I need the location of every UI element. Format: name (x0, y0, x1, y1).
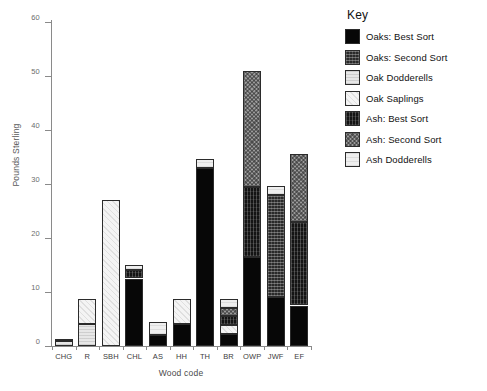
y-tick (45, 184, 51, 185)
x-tick-label: R (76, 352, 100, 361)
x-tick-label: JWF (264, 352, 288, 361)
bar[interactable] (78, 0, 96, 346)
legend-item[interactable]: Ash Dodderells (345, 152, 485, 167)
legend-item-label: Oaks: Second Sort (366, 52, 447, 63)
bar-segment[interactable] (220, 334, 238, 346)
legend-item[interactable]: Oaks: Second Sort (345, 50, 485, 65)
y-tick (45, 130, 51, 131)
x-tick (76, 346, 77, 350)
bar-segment[interactable] (125, 279, 143, 347)
x-tick (287, 346, 288, 350)
legend-item[interactable]: Ash: Best Sort (345, 111, 485, 126)
bar-segment[interactable] (243, 71, 261, 187)
bar[interactable] (173, 0, 191, 346)
x-tick (170, 346, 171, 350)
legend-swatch (345, 29, 360, 44)
bar-segment[interactable] (102, 200, 120, 346)
bar-segment[interactable] (78, 324, 96, 346)
bar-segment[interactable] (267, 186, 285, 195)
x-tick-label: BR (217, 352, 241, 361)
y-tick (45, 346, 51, 347)
x-tick-label: SBH (99, 352, 123, 361)
x-tick (217, 346, 218, 350)
bar[interactable] (220, 0, 238, 346)
y-tick-label: 60 (0, 13, 40, 22)
y-tick (45, 22, 51, 23)
bar[interactable] (55, 0, 73, 346)
bar-segment[interactable] (220, 308, 238, 316)
y-tick (45, 292, 51, 293)
x-tick (52, 346, 53, 350)
x-tick-label: AS (146, 352, 170, 361)
bar[interactable] (125, 0, 143, 346)
bar[interactable] (267, 0, 285, 346)
y-tick-label: 20 (0, 229, 40, 238)
x-tick-label: HH (170, 352, 194, 361)
legend-item-label: Ash: Second Sort (366, 134, 442, 145)
legend-item[interactable]: Oak Saplings (345, 91, 485, 106)
bar[interactable] (149, 0, 167, 346)
legend-rows: Oaks: Best SortOaks: Second SortOak Dodd… (345, 29, 485, 167)
bar-segment[interactable] (196, 168, 214, 346)
y-tick (45, 76, 51, 77)
chart-root: 0102030405060 CHGRSBHCHLASHHTHBROWPJWFEF… (0, 0, 487, 391)
x-tick (240, 346, 241, 350)
bar-segment[interactable] (243, 257, 261, 346)
x-axis-label: Wood code (51, 368, 311, 378)
bar[interactable] (243, 0, 261, 346)
y-tick-label: 10 (0, 283, 40, 292)
x-tick (99, 346, 100, 350)
bar-segment[interactable] (149, 335, 167, 346)
legend-item[interactable]: Oak Dodderells (345, 70, 485, 85)
bar-segment[interactable] (220, 299, 238, 308)
legend-swatch (345, 111, 360, 126)
bar-segment[interactable] (243, 187, 261, 257)
x-tick (123, 346, 124, 350)
x-tick (264, 346, 265, 350)
bar-segment[interactable] (290, 222, 308, 306)
y-tick-label: 50 (0, 67, 40, 76)
bar-segment[interactable] (290, 306, 308, 347)
y-axis-label: Pounds Sterling (11, 95, 21, 215)
bar[interactable] (196, 0, 214, 346)
bar-segment[interactable] (173, 324, 191, 346)
legend-item-label: Ash Dodderells (366, 154, 432, 165)
bar-segment[interactable] (125, 270, 143, 279)
legend-item-label: Oak Saplings (366, 93, 424, 104)
bar-segment[interactable] (290, 154, 308, 222)
x-tick-label: OWP (240, 352, 264, 361)
y-tick (45, 238, 51, 239)
legend-title: Key (347, 8, 485, 22)
legend-swatch (345, 50, 360, 65)
bar-segment[interactable] (267, 195, 285, 298)
legend-item-label: Ash: Best Sort (366, 113, 428, 124)
bar[interactable] (102, 0, 120, 346)
x-axis-line (51, 346, 311, 347)
bar-segment[interactable] (78, 299, 96, 324)
y-axis-line (51, 20, 52, 347)
legend-item-label: Oak Dodderells (366, 72, 433, 83)
x-tick-label: CHG (52, 352, 76, 361)
y-tick-label: 0 (0, 337, 40, 346)
legend: Key Oaks: Best SortOaks: Second SortOak … (345, 8, 485, 173)
bar-segment[interactable] (267, 297, 285, 346)
legend-item-label: Oaks: Best Sort (366, 31, 434, 42)
bar-segment[interactable] (149, 322, 167, 336)
legend-swatch (345, 152, 360, 167)
x-tick-label: CHL (123, 352, 147, 361)
bar-segment[interactable] (173, 299, 191, 324)
bar-segment[interactable] (125, 265, 143, 270)
legend-item[interactable]: Oaks: Best Sort (345, 29, 485, 44)
x-tick (311, 346, 312, 350)
bar-segment[interactable] (196, 159, 214, 168)
legend-swatch (345, 91, 360, 106)
legend-item[interactable]: Ash: Second Sort (345, 132, 485, 147)
bar-segment[interactable] (220, 325, 238, 334)
bar-segment[interactable] (55, 341, 73, 346)
legend-swatch (345, 132, 360, 147)
bar-segment[interactable] (220, 316, 238, 325)
bar-segment[interactable] (55, 339, 73, 341)
bar[interactable] (290, 0, 308, 346)
x-tick-label: EF (287, 352, 311, 361)
plot-area: 0102030405060 CHGRSBHCHLASHHTHBROWPJWFEF… (0, 0, 340, 391)
